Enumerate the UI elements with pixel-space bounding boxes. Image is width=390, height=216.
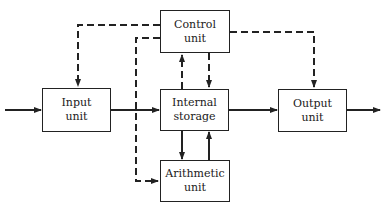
arithmetic-unit-label-2: unit (184, 181, 206, 195)
control-unit-label-1: Control (174, 18, 216, 32)
control-unit-label-2: unit (184, 32, 206, 46)
input-unit-label-2: unit (65, 110, 87, 124)
output-unit-block: Output unit (278, 89, 347, 132)
output-unit-label-2: unit (301, 111, 323, 125)
internal-storage-block: Internal storage (160, 89, 229, 131)
input-unit-block: Input unit (42, 88, 111, 132)
arithmetic-unit-block: Arithmetic unit (160, 160, 230, 202)
arrow-control-to-output (230, 32, 314, 87)
control-unit-block: Control unit (160, 10, 230, 53)
arithmetic-unit-label-1: Arithmetic (165, 167, 224, 181)
arrow-control-to-input (78, 25, 160, 86)
internal-storage-label-1: Internal (172, 96, 217, 110)
input-unit-label-1: Input (62, 96, 92, 110)
internal-storage-label-2: storage (173, 110, 215, 124)
output-unit-label-1: Output (293, 97, 332, 111)
